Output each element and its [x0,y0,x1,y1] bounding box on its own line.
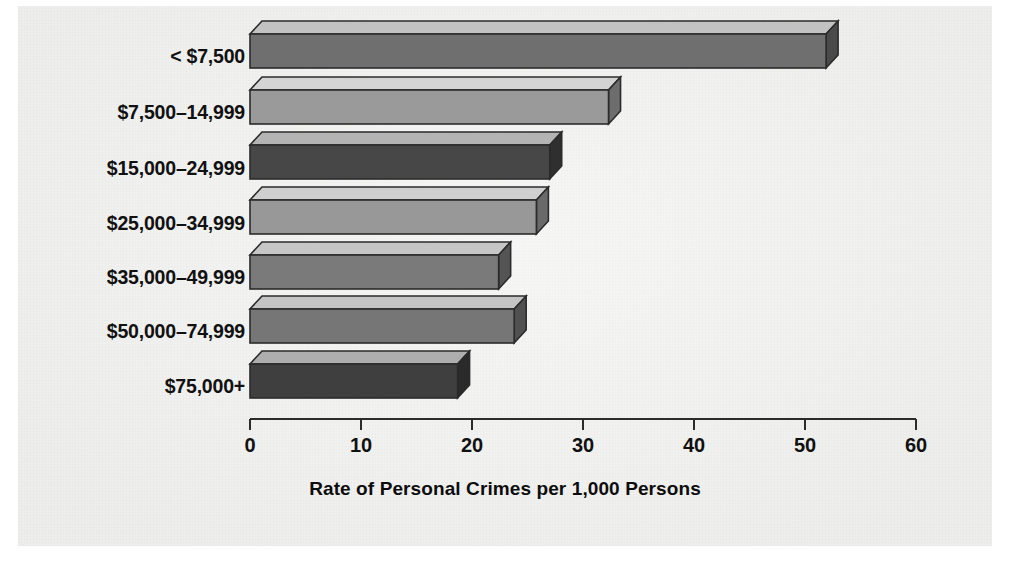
x-tick-label-1: 10 [345,434,377,457]
x-tick-label-3: 30 [567,434,599,457]
x-axis-title: Rate of Personal Crimes per 1,000 Person… [0,478,1010,500]
x-tick-label-5: 50 [789,434,821,457]
bar-chart: < $7,500 $7,500–14,999 $15,000–24,999 $2… [0,0,1010,566]
x-tick-label-2: 20 [456,434,488,457]
page-root: < $7,500 $7,500–14,999 $15,000–24,999 $2… [0,0,1010,566]
x-tick-label-0: 0 [234,434,266,457]
x-tick-label-6: 60 [900,434,932,457]
x-tick-label-4: 40 [678,434,710,457]
